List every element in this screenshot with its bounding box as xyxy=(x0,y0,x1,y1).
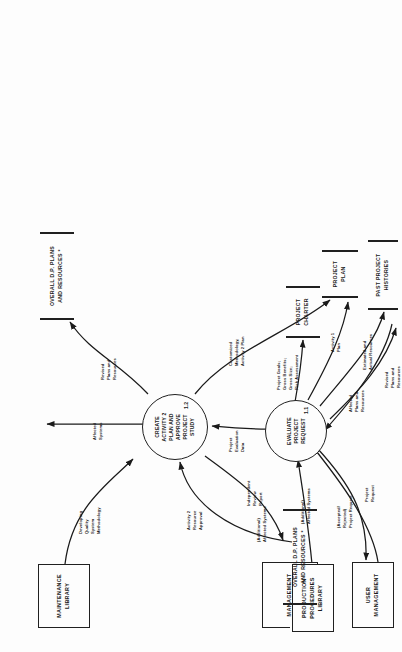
store-bar-left xyxy=(283,603,317,605)
store-bar-left xyxy=(286,336,320,338)
diagram-canvas: MAINTENANCE LIBRARY MANAGEMENT PRODUCTIO… xyxy=(0,0,402,652)
flow-label-project-request: Project Request xyxy=(364,485,376,502)
flow-label-revised-plans-top: Revised Plans and Resources xyxy=(100,358,118,380)
store-label: PAST PROJECT HISTORIES xyxy=(375,242,390,308)
process-evaluate-project-request[interactable]: EVALUATE PROJECT REQUEST xyxy=(265,400,327,462)
flow-independent-review xyxy=(205,456,283,540)
flow-label-accepted-rejected: (Accepted/ Rejected) Project Request xyxy=(336,495,354,528)
store-label: OVERALL D.P. PLANS AND RESOURCES * xyxy=(49,234,64,318)
flow-label-independent-review: Independent Review Report xyxy=(246,481,264,506)
store-bar-right xyxy=(283,509,317,511)
store-bar-left xyxy=(322,296,358,298)
flow-label-activity-2-approval: Activity 2 Resource Approval xyxy=(186,511,204,530)
process-create-activity-2-plan[interactable]: CREATE ACTIVITY 2 PLAN AND APPROVE PROJE… xyxy=(142,394,208,460)
store-past-project-histories[interactable]: PAST PROJECT HISTORIES xyxy=(368,240,398,310)
flow-label-affected-plans-resources: Affected Plans and Resources xyxy=(348,390,366,412)
flow-label-activity-1-plan: Activity 1 Plan xyxy=(330,333,342,352)
store-label: OVERALL D.P. PLANS AND RESOURCES * xyxy=(292,511,307,603)
connector-layer xyxy=(0,0,402,652)
store-bar-left xyxy=(40,318,74,320)
store-bar-left xyxy=(368,308,398,310)
store-bar-right xyxy=(286,286,320,288)
flow-label-project-evaluation-data: Project Evaluation Data xyxy=(228,430,246,452)
flow-label-revised-plans-bottom: Revised Plans and Resources xyxy=(384,366,402,388)
store-label: PROJECT CHARTER xyxy=(295,288,310,336)
flow-project-evaluation-data xyxy=(212,426,268,429)
flow-activity-2-approval xyxy=(180,462,292,542)
flow-label-additional-affected: (Additional) Affected Systems xyxy=(256,506,268,542)
process-label: CREATE ACTIVITY 2 PLAN AND APPROVE PROJE… xyxy=(154,413,196,442)
entity-label: MAINTENANCE LIBRARY xyxy=(56,574,72,618)
process-number-1-2: 1.2 xyxy=(183,402,189,409)
flow-label-developing-quality: Developing Quality System Methodology xyxy=(78,507,103,534)
entity-user-management[interactable]: USER MANAGEMENT xyxy=(352,562,394,628)
process-label: EVALUATE PROJECT REQUEST xyxy=(286,417,307,445)
store-bar-right xyxy=(368,240,398,242)
store-project-plan[interactable]: PROJECT PLAN xyxy=(322,250,358,298)
store-bar-right xyxy=(322,250,358,252)
flow-label-customized-methodology: Customized Methodology, Activity 2 Plan xyxy=(228,337,246,367)
store-overall-dp-plans-bottom[interactable]: OVERALL D.P. PLANS AND RESOURCES * xyxy=(283,509,317,605)
process-number-1-1: 1.1 xyxy=(303,407,309,414)
store-label: PROJECT PLAN xyxy=(332,252,347,296)
entity-maintenance-library[interactable]: MAINTENANCE LIBRARY xyxy=(38,564,90,628)
flow-label-project-goals: Project Goals; Gross Benefits; Gross Siz… xyxy=(276,355,301,390)
diagram-page: MAINTENANCE LIBRARY MANAGEMENT PRODUCTIO… xyxy=(0,0,402,652)
store-overall-dp-plans-top[interactable]: OVERALL D.P. PLANS AND RESOURCES * xyxy=(40,232,74,320)
entity-label: USER MANAGEMENT xyxy=(365,574,381,617)
flow-label-estimated-actual: Estimated and Actual Resources xyxy=(362,334,374,370)
store-project-charter[interactable]: PROJECT CHARTER xyxy=(286,286,320,338)
flow-label-affected-systems: Affected Systems xyxy=(92,422,104,440)
store-bar-right xyxy=(40,232,74,234)
